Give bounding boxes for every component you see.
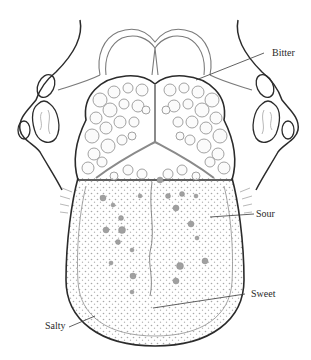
- label-bitter: Bitter: [272, 48, 295, 58]
- label-salty: Salty: [45, 321, 66, 331]
- label-sweet: Sweet: [251, 289, 275, 299]
- epiglottis: [58, 29, 252, 90]
- leader-bitter: [196, 53, 264, 80]
- label-sour: Sour: [256, 209, 275, 219]
- tongue-body-outline: [66, 178, 244, 346]
- tongue-illustration: [0, 0, 311, 360]
- tongue-diagram: Bitter Sour Sweet Salty: [0, 0, 311, 360]
